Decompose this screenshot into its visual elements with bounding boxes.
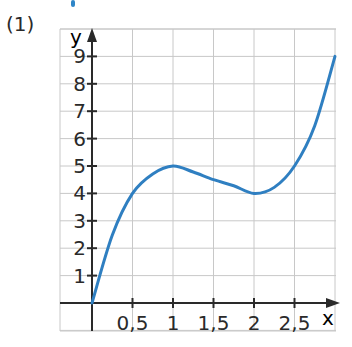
y-tick-label: 2: [73, 236, 86, 260]
y-tick-label: 5: [73, 154, 86, 178]
x-axis-label: x: [322, 306, 334, 330]
axes: [60, 28, 340, 331]
y-tick-label: 6: [73, 127, 86, 151]
x-tick-label: 1: [167, 311, 180, 335]
grid: [60, 29, 336, 331]
x-tick-label: 2,5: [279, 311, 311, 335]
y-tick-label: 8: [73, 72, 86, 96]
x-tick-label: 1,5: [198, 311, 230, 335]
x-tick-label: 2: [248, 311, 261, 335]
y-axis-label: y: [70, 25, 82, 49]
y-tick-label: 3: [73, 209, 86, 233]
x-tick-label: 0,5: [117, 311, 149, 335]
y-tick-label: 1: [73, 264, 86, 288]
ticks: [87, 56, 295, 308]
y-tick-label: 4: [73, 181, 86, 205]
y-tick-label: 7: [73, 99, 86, 123]
tick-labels: 0,511,522,5123456789: [73, 44, 310, 335]
line-chart: 0,511,522,5123456789 x y: [0, 0, 352, 347]
